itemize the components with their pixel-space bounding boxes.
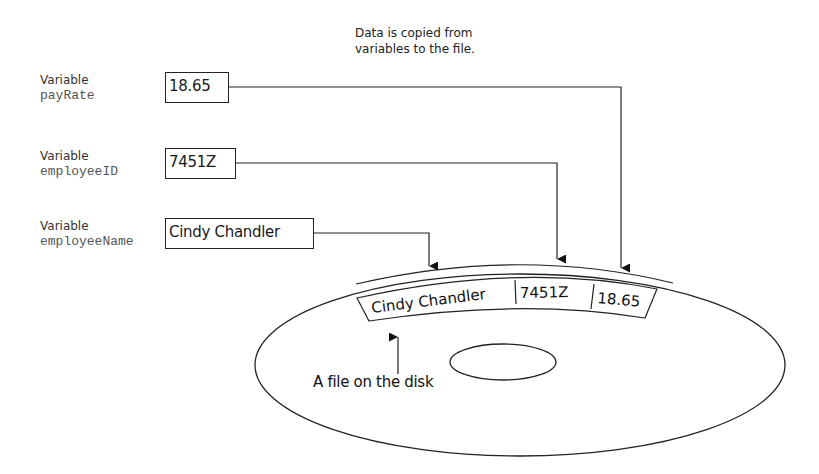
copy-caption-line-1: Data is copied from bbox=[355, 25, 475, 41]
variable-payrate-label: Variable payRate bbox=[40, 72, 95, 104]
disk-file-caption: A file on the disk bbox=[313, 373, 433, 391]
variable-label: Variable bbox=[40, 218, 134, 234]
variable-employeename-label: Variable employeeName bbox=[40, 218, 134, 250]
copy-caption-line-2: variables to the file. bbox=[355, 41, 475, 57]
file-field-employee-id: 7451Z bbox=[520, 283, 569, 302]
variable-employeeid-label: Variable employeeID bbox=[40, 148, 118, 180]
variable-name-payrate: payRate bbox=[40, 88, 95, 104]
variable-name-employeename: employeeName bbox=[40, 234, 134, 250]
disk-hub-ellipse bbox=[450, 344, 556, 380]
copy-caption: Data is copied from variables to the fil… bbox=[355, 25, 475, 57]
variable-label: Variable bbox=[40, 72, 95, 88]
connector-employeename bbox=[313, 233, 429, 266]
variable-name-employeeid: employeeID bbox=[40, 164, 118, 180]
file-field-pay-rate: 18.65 bbox=[597, 289, 641, 311]
variable-label: Variable bbox=[40, 148, 118, 164]
variable-value-employeeid: 7451Z bbox=[165, 148, 236, 179]
variable-value-employeename: Cindy Chandler bbox=[165, 218, 314, 249]
variable-value-payrate: 18.65 bbox=[165, 72, 229, 103]
